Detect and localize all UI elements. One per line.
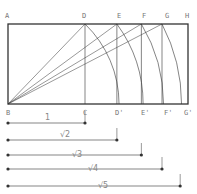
label-G-prime: G' — [184, 109, 192, 117]
dim-label-1: 1 — [45, 113, 50, 122]
diagonal-2 — [8, 24, 141, 104]
dimension-start-dot-3 — [6, 167, 9, 170]
dimension-start-dot-2 — [6, 153, 9, 156]
dimension-start-dot-4 — [6, 184, 9, 187]
label-E-prime: E' — [141, 109, 149, 117]
dim-label-sqrt2: √2 — [60, 130, 70, 139]
label-D: D — [82, 12, 86, 20]
dimension-start-dot-1 — [6, 138, 9, 141]
dim-label-sqrt3: √3 — [72, 150, 82, 159]
arc-3 — [162, 24, 182, 104]
label-F-prime: F' — [164, 109, 172, 117]
label-A: A — [5, 12, 10, 20]
outer-rectangle — [8, 24, 188, 104]
label-H: H — [185, 12, 189, 20]
diagonal-1 — [8, 24, 117, 104]
dimension-start-dot-0 — [6, 121, 9, 124]
label-C: C — [83, 109, 87, 117]
dim-label-sqrt4: √4 — [88, 164, 98, 173]
label-D-prime: D' — [115, 109, 123, 117]
arc-2 — [141, 24, 163, 104]
label-F: F — [142, 12, 146, 20]
dim-label-sqrt5: √5 — [98, 181, 108, 190]
label-E: E — [117, 12, 121, 20]
label-B: B — [6, 109, 10, 117]
diagonal-0 — [8, 24, 85, 104]
arc-0 — [85, 24, 119, 104]
label-G: G — [165, 12, 169, 20]
root-rectangle-diagram: A D E F G H B C D' E' F' G' 1 √2 √3 √4 √… — [0, 0, 197, 194]
